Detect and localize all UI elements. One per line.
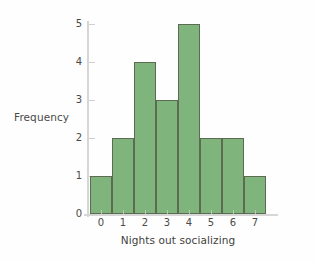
bar — [90, 176, 112, 214]
x-tick-mark — [189, 210, 190, 214]
x-tick-label: 4 — [178, 218, 200, 228]
x-tick-mark — [255, 210, 256, 214]
x-tick-label: 0 — [90, 218, 112, 228]
y-tick-label: 3 — [64, 95, 82, 105]
bar — [200, 138, 222, 214]
histogram-figure: Frequency 012345 01234567 Nights out soc… — [0, 0, 315, 262]
plot-area — [90, 24, 266, 214]
bar — [156, 100, 178, 214]
y-axis-line — [87, 21, 89, 217]
x-tick-label: 5 — [200, 218, 222, 228]
x-tick-label: 3 — [156, 218, 178, 228]
x-tick-label: 2 — [134, 218, 156, 228]
y-tick-label: 5 — [64, 19, 82, 29]
y-tick-label: 2 — [64, 133, 82, 143]
x-axis-label: Nights out socializing — [90, 234, 266, 246]
x-tick-mark — [145, 210, 146, 214]
x-tick-mark — [211, 210, 212, 214]
bar — [134, 62, 156, 214]
y-tick-mark — [89, 214, 95, 215]
bar — [244, 176, 266, 214]
y-tick-label: 4 — [64, 57, 82, 67]
x-tick-label: 1 — [112, 218, 134, 228]
x-tick-mark — [167, 210, 168, 214]
x-tick-label: 6 — [222, 218, 244, 228]
x-tick-mark — [123, 210, 124, 214]
y-tick-label: 1 — [64, 171, 82, 181]
y-tick-label: 0 — [64, 209, 82, 219]
x-tick-mark — [233, 210, 234, 214]
bar — [178, 24, 200, 214]
x-tick-mark — [101, 210, 102, 214]
x-tick-label: 7 — [244, 218, 266, 228]
bar — [112, 138, 134, 214]
x-axis-line — [84, 214, 278, 216]
y-axis-label: Frequency — [14, 111, 76, 123]
bar — [222, 138, 244, 214]
